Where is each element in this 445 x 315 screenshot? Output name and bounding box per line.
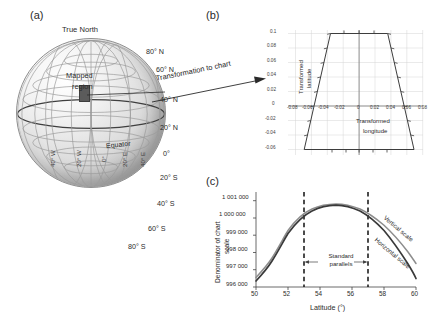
panel-b-svg bbox=[288, 30, 423, 155]
standard-parallels-label-line2: parallels bbox=[316, 260, 366, 268]
c-ylabel-line1: Denominator of chart bbox=[214, 221, 222, 283]
standard-parallels-label-line1: Standard bbox=[316, 252, 366, 260]
b-xtick-0.04: 0.04 bbox=[386, 106, 395, 111]
c-xtick-60: 60 bbox=[411, 291, 418, 297]
b-xtick-0.08: 0.08 bbox=[418, 106, 427, 111]
panel-b-chart: (b) bbox=[206, 8, 445, 173]
b-xlabel-line1: Transformed bbox=[356, 118, 390, 124]
b-xtick--0.02: -0.02 bbox=[334, 106, 344, 111]
transformed-graticule-plot bbox=[288, 30, 423, 155]
panel-b-label: (b) bbox=[206, 10, 219, 21]
b-ytick--0.04: -0.04 bbox=[265, 131, 275, 136]
b-xtick-0: 0 bbox=[357, 106, 360, 111]
b-xtick--0.04: -0.04 bbox=[318, 106, 328, 111]
b-xtick--0.08: -0.08 bbox=[287, 106, 297, 111]
c-ytick-1000000: 1 000 000 bbox=[219, 211, 246, 217]
c-xtick-56: 56 bbox=[347, 291, 354, 297]
c-xtick-54: 54 bbox=[315, 291, 322, 297]
b-xlabel-line2: longitude bbox=[363, 128, 387, 134]
panel-c-svg bbox=[256, 192, 416, 287]
c-xtick-52: 52 bbox=[283, 291, 290, 297]
b-xtick-0.02: 0.02 bbox=[370, 106, 379, 111]
b-ytick-0.08: 0.08 bbox=[267, 44, 276, 49]
c-xlabel: Latitude (°) bbox=[310, 304, 345, 311]
c-xtick-50: 50 bbox=[251, 291, 258, 297]
panel-c-chart: (c) bbox=[206, 176, 445, 315]
b-ylabel-line1: Transformed bbox=[298, 60, 304, 94]
b-ytick-0.02: 0.02 bbox=[267, 88, 276, 93]
b-ytick--0.06: -0.06 bbox=[265, 146, 275, 151]
c-xtick-58: 58 bbox=[379, 291, 386, 297]
mapped-region-leader-line bbox=[0, 0, 205, 315]
c-ytick-996000: 996 000 bbox=[226, 281, 248, 287]
b-ytick-0.06: 0.06 bbox=[267, 59, 276, 64]
b-ytick-0.04: 0.04 bbox=[267, 73, 276, 78]
b-ytick--0.02: -0.02 bbox=[265, 117, 275, 122]
c-ytick-1001000: 1 001 000 bbox=[222, 194, 249, 200]
b-ytick-0: 0 bbox=[272, 102, 275, 107]
c-ytick-999000: 999 000 bbox=[226, 229, 248, 235]
b-ytick-0.1: 0.1 bbox=[270, 30, 276, 35]
b-ylabel-line2: latitude bbox=[306, 69, 312, 88]
b-xtick-0.06: 0.06 bbox=[402, 106, 411, 111]
c-ylabel-line2: scale bbox=[223, 239, 231, 254]
figure-root: (a) True North bbox=[0, 0, 445, 315]
c-ytick-997000: 997 000 bbox=[226, 263, 248, 269]
panel-c-label: (c) bbox=[206, 176, 219, 187]
chart-scale-plot bbox=[256, 192, 416, 287]
b-xtick--0.06: -0.06 bbox=[302, 106, 312, 111]
